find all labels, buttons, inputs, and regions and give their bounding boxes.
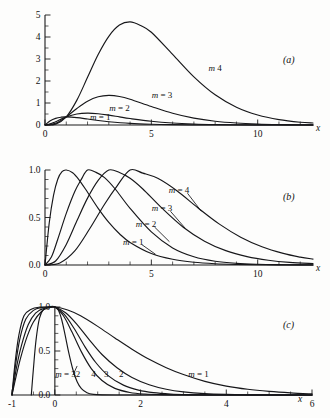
- curve-label: m = 3: [152, 90, 173, 100]
- curve-label: m = 2: [136, 219, 157, 229]
- y-tick-label: 2: [36, 76, 41, 86]
- curve-m-3: [45, 95, 313, 125]
- panel-a: 0510012345 m = 1m = 2m = 3m 4 (a) x: [0, 0, 330, 150]
- panel-b-curves: [45, 169, 313, 265]
- curve-label: m = 4: [169, 185, 190, 195]
- y-tick-label: 4: [36, 32, 41, 42]
- x-tick-label: 4: [224, 399, 229, 409]
- x-tick-label: 2: [138, 399, 143, 409]
- curve-label: m 4: [209, 63, 223, 73]
- y-tick-label: 3: [36, 54, 41, 64]
- curve-label: m = 1: [90, 112, 111, 122]
- x-tick-label: 0: [52, 399, 57, 409]
- y-tick-label: 0: [36, 120, 41, 130]
- curve-label: m = 1: [188, 369, 209, 379]
- panel-b-plot: 05100.00.51.0 m = 1m = 2m = 3m = 4 (b) x: [0, 150, 330, 290]
- x-tick-label: 0: [43, 269, 48, 279]
- x-tick-label: 5: [149, 269, 154, 279]
- panel-a-curve-labels: m = 1m = 2m = 3m 4: [90, 63, 222, 122]
- panel-c-plot: -102460.00.51.0 m = 1234m = 32 (c) x: [0, 285, 330, 418]
- y-tick-label: 0.5: [29, 213, 41, 223]
- x-tick-label: 0: [43, 129, 48, 139]
- curve-label: 4: [91, 369, 96, 379]
- y-tick-label: 1.0: [29, 165, 41, 175]
- panel-b-axes: 05100.00.51.0: [29, 165, 313, 278]
- y-tick-label: 5: [36, 10, 41, 20]
- x-tick-label: 10: [253, 269, 263, 279]
- x-tick-label: 5: [149, 129, 154, 139]
- y-tick-label: 0.0: [29, 260, 41, 270]
- panel-a-curves: [45, 22, 313, 125]
- panel-b-curve-labels: m = 1m = 2m = 3m = 4: [123, 185, 201, 254]
- panel-a-label: (a): [283, 54, 295, 66]
- x-tick-label: -1: [8, 399, 16, 409]
- curve-m-4: [45, 22, 313, 125]
- curve-label: m = 2: [109, 103, 130, 113]
- figure-curve-families: 0510012345 m = 1m = 2m = 3m 4 (a) x 0510…: [0, 0, 330, 418]
- x-tick-label: 10: [253, 129, 263, 139]
- curve-label: m = 1: [123, 237, 144, 247]
- curve-label: 2: [119, 369, 124, 379]
- curve-label: m = 32: [55, 369, 80, 379]
- panel-c: -102460.00.51.0 m = 1234m = 32 (c) x: [0, 285, 330, 418]
- panel-a-axes: 0510012345: [36, 10, 313, 138]
- panel-c-label: (c): [283, 319, 295, 331]
- curve-label: m = 3: [152, 203, 173, 213]
- panel-a-xlabel: x: [315, 123, 321, 133]
- panel-b-xlabel: x: [315, 263, 321, 273]
- panel-a-plot: 0510012345 m = 1m = 2m = 3m 4 (a) x: [0, 0, 330, 150]
- panel-c-axes: -102460.00.51.0: [8, 302, 315, 408]
- curve-label: 3: [104, 369, 109, 379]
- y-tick-label: 0.5: [38, 346, 50, 356]
- x-tick-label: 6: [310, 399, 315, 409]
- panel-b-label: (b): [283, 191, 295, 203]
- y-tick-label: 1: [36, 98, 41, 108]
- y-tick-label: 0.0: [38, 390, 50, 400]
- panel-b: 05100.00.51.0 m = 1m = 2m = 3m = 4 (b) x: [0, 150, 330, 290]
- panel-c-xlabel: x: [297, 394, 303, 404]
